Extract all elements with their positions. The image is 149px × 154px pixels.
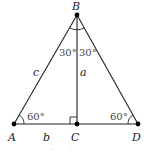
point-D — [136, 122, 141, 127]
side-AB — [14, 15, 77, 124]
label-side-a: a — [80, 66, 87, 79]
point-B — [75, 13, 80, 18]
point-C — [75, 122, 80, 127]
label-angle-D: 60° — [110, 111, 128, 122]
triangle-diagram: B A C D c a b 30° 30° 60° 60° — [0, 0, 149, 154]
label-A: A — [7, 131, 16, 144]
speck — [69, 146, 70, 147]
point-A — [12, 122, 17, 127]
label-side-c: c — [33, 66, 39, 79]
label-C: C — [71, 131, 80, 144]
angle-arc-D — [128, 115, 133, 124]
label-D: D — [131, 131, 141, 144]
label-angle-A: 60° — [27, 111, 45, 122]
angle-arc-A — [19, 115, 24, 124]
label-side-b: b — [43, 131, 50, 144]
label-angle-B-left: 30° — [59, 47, 77, 58]
speck — [51, 148, 52, 149]
label-B: B — [71, 0, 80, 13]
label-angle-B-right: 30° — [79, 47, 97, 58]
